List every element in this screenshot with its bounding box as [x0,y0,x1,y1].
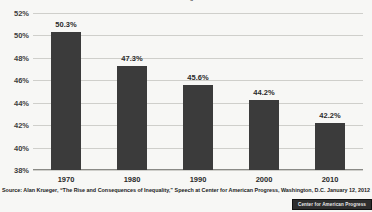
bar[interactable] [315,123,345,170]
y-axis-tick-label: 38% [14,166,29,175]
bar[interactable] [249,100,279,170]
bar-value-label: 45.6% [187,73,208,82]
y-axis-tick-label: 50% [14,31,29,40]
bar-group: 45.6%1990 [183,13,213,170]
plot-area: 52%50%48%46%44%42%40%38% 50.3%197047.3%1… [33,13,363,170]
y-axis-tick-label: 48% [14,53,29,62]
bar[interactable] [183,85,213,170]
chart-title: Percent of Income Going to the Middle Cl… [0,0,372,1]
y-axis-tick-label: 46% [14,76,29,85]
bar-value-label: 44.2% [253,88,274,97]
chart-page: Percent of Income Going to the Middle Cl… [0,0,372,212]
x-axis-tick-label: 1970 [58,175,75,184]
bar-value-label: 42.2% [319,111,340,120]
x-axis-tick-label: 1990 [190,175,207,184]
y-axis-tick-label: 42% [14,121,29,130]
bar-group: 47.3%1980 [117,13,147,170]
x-axis-tick-label: 2010 [322,175,339,184]
x-axis-tick-label: 2000 [256,175,273,184]
bar[interactable] [51,32,81,170]
y-axis-tick-label: 40% [14,143,29,152]
gridline [33,170,363,171]
bar-value-label: 50.3% [55,20,76,29]
y-axis-tick-label: 44% [14,98,29,107]
bar-value-label: 47.3% [121,54,142,63]
logo-badge: Center for American Progress [292,199,372,210]
bar-group: 44.2%2000 [249,13,279,170]
bar-group: 50.3%1970 [51,13,81,170]
bar-group: 42.2%2010 [315,13,345,170]
x-axis-tick-label: 1980 [124,175,141,184]
y-axis-tick-label: 52% [14,9,29,18]
source-note: Source: Alan Krueger, “The Rise and Cons… [2,187,370,193]
bar[interactable] [117,66,147,170]
